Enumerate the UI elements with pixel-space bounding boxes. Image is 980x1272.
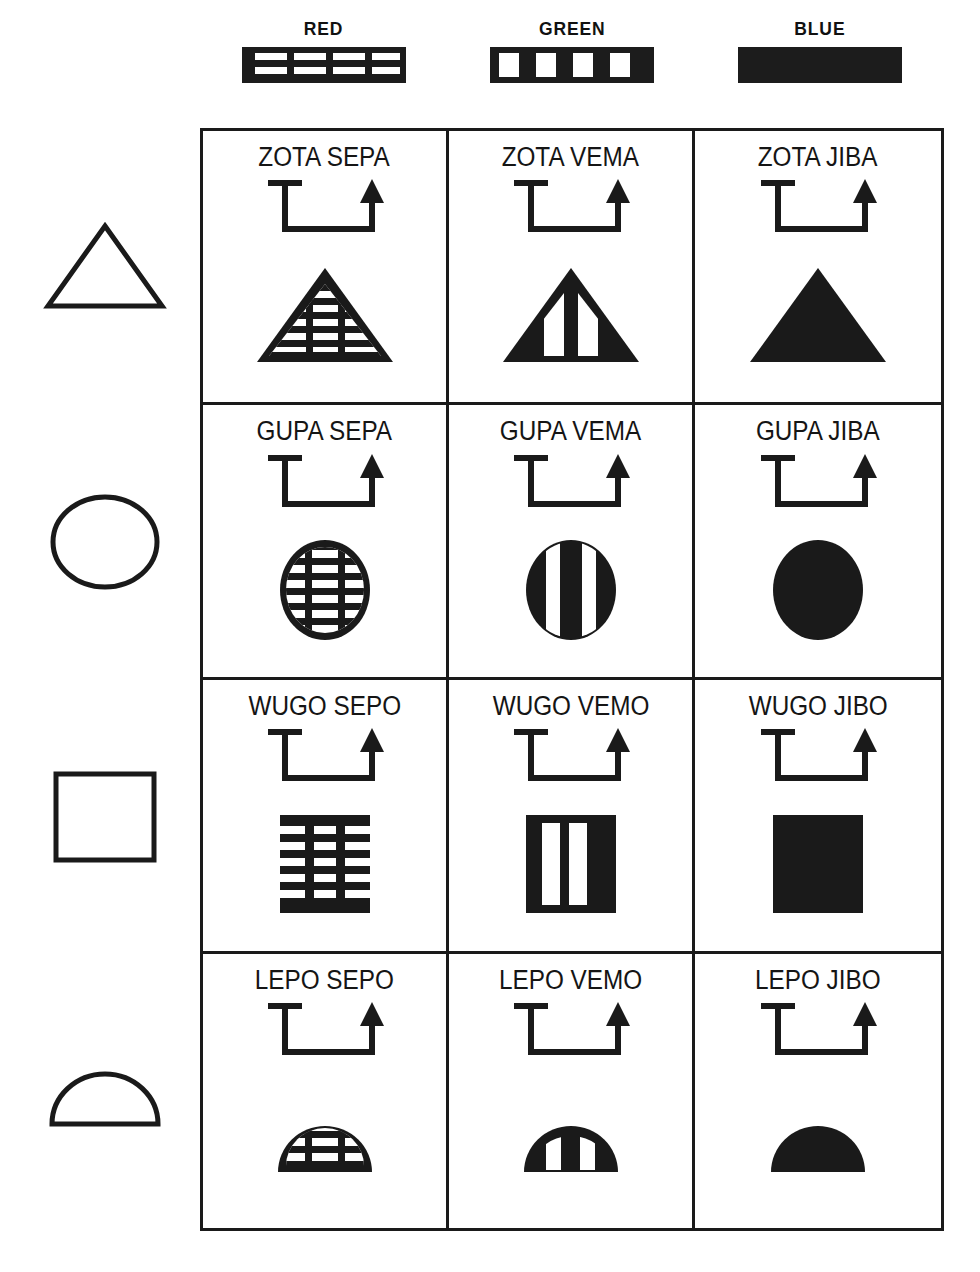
cell-label: LEPO SEPO [255,966,394,994]
column-label-blue: BLUE [794,18,845,40]
half-circle-green-striped-icon [506,1100,636,1180]
square-red-striped-icon [265,809,385,919]
stimulus-grid: ZOTA SEPA [200,128,944,1231]
bracket-arrow-icon [250,1000,400,1062]
cell-label: ZOTA SEPA [259,143,390,171]
bracket-arrow-icon [250,726,400,788]
shape-slot [449,239,692,402]
cell-label: LEPO VEMO [499,966,642,994]
cell-label: LEPO JIBO [755,966,881,994]
cell-label: WUGO VEMO [492,692,649,720]
bracket-arrow-icon [743,726,893,788]
shape-slot [449,514,692,677]
circle-blue-solid-icon [753,535,883,645]
color-swatch-red [242,47,406,83]
shape-slot [203,239,446,402]
column-header-red: RED [200,18,448,110]
circle-red-striped-icon [260,535,390,645]
cell-gupa-vema[interactable]: GUPA VEMA [449,405,695,679]
bracket-arrow-icon [743,177,893,239]
cell-zota-vema[interactable]: ZOTA VEMA [449,131,695,405]
cell-label: WUGO JIBO [748,692,887,720]
shape-slot [203,1062,446,1228]
bracket-arrow-icon [743,452,893,514]
shape-slot [203,514,446,677]
bracket-arrow-icon [250,452,400,514]
cell-wugo-jibo[interactable]: WUGO JIBO [695,680,941,954]
cell-lepo-jibo[interactable]: LEPO JIBO [695,954,941,1228]
column-label-red: RED [304,18,344,40]
shape-slot [695,514,941,677]
shape-slot [695,239,941,402]
triangle-red-striped-icon [250,264,400,368]
color-swatch-blue [738,47,902,83]
cell-label: WUGO SEPO [248,692,401,720]
cell-label: ZOTA VEMA [502,143,639,171]
cell-label: GUPA SEPA [257,417,393,445]
triangle-blue-solid-icon [743,264,893,368]
cell-wugo-sepo[interactable]: WUGO SEPO [203,680,449,954]
bracket-arrow-icon [496,1000,646,1062]
row-shape-labels [20,128,190,1231]
circle-green-striped-icon [506,535,636,645]
square-outline-icon [40,762,170,872]
cell-wugo-vemo[interactable]: WUGO VEMO [449,680,695,954]
bracket-arrow-icon [496,452,646,514]
cell-lepo-sepo[interactable]: LEPO SEPO [203,954,449,1228]
cell-lepo-vemo[interactable]: LEPO VEMO [449,954,695,1228]
shape-slot [449,1062,692,1228]
triangle-outline-icon [40,216,170,316]
cell-zota-sepa[interactable]: ZOTA SEPA [203,131,449,405]
cell-label: ZOTA JIBA [758,143,878,171]
row-label-circle [20,404,190,680]
row-label-half-circle [20,955,190,1231]
bracket-arrow-icon [496,726,646,788]
bracket-arrow-icon [250,177,400,239]
square-green-striped-icon [511,809,631,919]
cell-zota-jiba[interactable]: ZOTA JIBA [695,131,941,405]
shape-slot [449,788,692,951]
column-headers: RED GREEN BLUE [200,18,944,110]
cell-label: GUPA JIBA [756,417,880,445]
figure-sheet: RED GREEN BLUE [0,0,980,1272]
square-blue-solid-icon [758,809,878,919]
cell-gupa-sepa[interactable]: GUPA SEPA [203,405,449,679]
half-circle-blue-solid-icon [753,1100,883,1180]
half-circle-red-striped-icon [260,1100,390,1180]
row-label-square [20,680,190,956]
bracket-arrow-icon [743,1000,893,1062]
cell-label: GUPA VEMA [500,417,641,445]
half-circle-outline-icon [40,1038,170,1148]
bracket-arrow-icon [496,177,646,239]
column-label-green: GREEN [539,18,606,40]
color-swatch-green [490,47,654,83]
row-label-triangle [20,128,190,404]
column-header-blue: BLUE [696,18,944,110]
cell-gupa-jiba[interactable]: GUPA JIBA [695,405,941,679]
shape-slot [695,788,941,951]
triangle-green-striped-icon [496,264,646,368]
shape-slot [695,1062,941,1228]
circle-outline-icon [40,487,170,597]
shape-slot [203,788,446,951]
column-header-green: GREEN [448,18,696,110]
